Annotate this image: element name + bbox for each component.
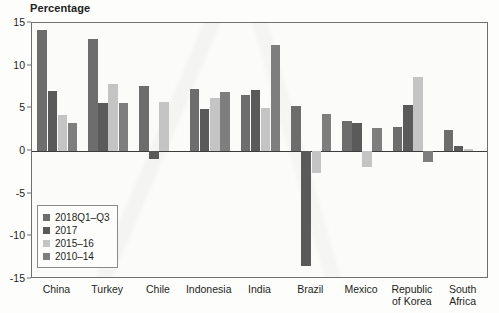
bar — [301, 151, 311, 266]
bar-group — [134, 23, 185, 277]
bar-group — [235, 23, 286, 277]
y-axis-tick-label: 15 — [0, 16, 25, 28]
bar — [200, 109, 210, 151]
legend-swatch — [43, 227, 50, 234]
bar-group — [387, 23, 438, 277]
legend-swatch — [43, 253, 50, 260]
bar — [342, 121, 352, 151]
bar — [362, 151, 372, 167]
bar — [220, 92, 230, 151]
legend-label: 2018Q1–Q3 — [55, 212, 110, 223]
bar — [98, 103, 108, 151]
bar — [88, 39, 98, 151]
x-axis-label: Turkey — [82, 284, 133, 296]
y-axis-tick-label: 0 — [0, 144, 25, 156]
bar — [413, 77, 423, 151]
bar — [48, 91, 58, 151]
bar — [423, 151, 433, 162]
legend-swatch — [43, 214, 50, 221]
bar-group — [337, 23, 388, 277]
legend-swatch — [43, 240, 50, 247]
bar — [241, 95, 251, 151]
bar — [139, 86, 149, 151]
x-axis-label: India — [234, 284, 285, 296]
bar — [444, 130, 454, 151]
bar — [454, 146, 464, 151]
bar — [271, 45, 281, 151]
chart-legend: 2018Q1–Q320172015–162010–14 — [37, 205, 118, 268]
bar-group — [184, 23, 235, 277]
x-axis-label: Chile — [133, 284, 184, 296]
bar — [393, 127, 403, 151]
bar — [372, 128, 382, 151]
legend-item[interactable]: 2010–14 — [43, 250, 110, 262]
legend-label: 2015–16 — [55, 238, 94, 249]
bar — [251, 90, 261, 151]
bar — [108, 84, 118, 151]
bar — [261, 108, 271, 151]
y-axis-tick-label: -10 — [0, 229, 25, 241]
bar — [68, 123, 78, 151]
bar — [159, 102, 169, 151]
bar — [312, 151, 322, 173]
bar — [58, 115, 68, 151]
legend-label: 2010–14 — [55, 251, 94, 262]
y-axis-tick-label: -5 — [0, 187, 25, 199]
bar — [291, 106, 301, 151]
legend-item[interactable]: 2015–16 — [43, 237, 110, 249]
x-axis-label: Brazil — [285, 284, 336, 296]
x-axis-label: China — [31, 284, 82, 296]
x-axis-label: Mexico — [336, 284, 387, 296]
bar — [190, 89, 200, 151]
x-axis-label: Republicof Korea — [386, 284, 437, 307]
legend-item[interactable]: 2017 — [43, 224, 110, 236]
bar — [464, 149, 474, 151]
bar — [403, 105, 413, 151]
y-axis-tick-label: -15 — [0, 272, 25, 284]
legend-item[interactable]: 2018Q1–Q3 — [43, 211, 110, 223]
y-axis-tick-label: 5 — [0, 101, 25, 113]
chart-figure: Percentage 151050-5-10-15 2018Q1–Q320172… — [0, 0, 499, 313]
bar — [210, 98, 220, 151]
legend-label: 2017 — [55, 225, 77, 236]
bar-group — [438, 23, 488, 277]
bar-group — [286, 23, 337, 277]
x-axis-label: SouthAfrica — [437, 284, 488, 307]
bar — [119, 103, 129, 151]
bar — [352, 123, 362, 151]
y-axis-title: Percentage — [30, 2, 90, 14]
x-axis-label: Indonesia — [183, 284, 234, 296]
bar — [149, 151, 159, 159]
plot-area: 2018Q1–Q320172015–162010–14 — [31, 22, 488, 278]
bar — [37, 30, 47, 151]
y-axis-tick-label: 10 — [0, 59, 25, 71]
bar — [322, 114, 332, 151]
